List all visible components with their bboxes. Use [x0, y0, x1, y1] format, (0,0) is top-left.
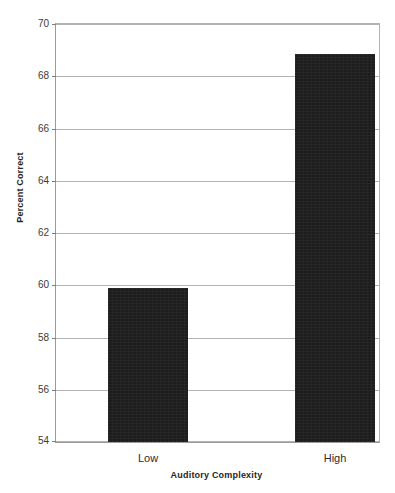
- x-axis-title: Auditory Complexity: [55, 470, 378, 481]
- ytick-label-70: 70: [38, 19, 49, 29]
- bar-high[interactable]: [295, 54, 375, 442]
- ytick-mark-70: [52, 24, 56, 25]
- y-axis-title: Percent Correct: [15, 128, 26, 248]
- xtick-label-high: High: [275, 452, 395, 465]
- ytick-mark-66: [52, 129, 56, 130]
- ytick-label-60: 60: [38, 280, 49, 290]
- gridline-70: 70: [56, 24, 379, 25]
- bar-chart-figure: 706866646260585654 Low High Auditory Com…: [0, 0, 395, 493]
- ytick-mark-58: [52, 338, 56, 339]
- ytick-mark-60: [52, 285, 56, 286]
- ytick-label-58: 58: [38, 333, 49, 343]
- bar-low[interactable]: [108, 288, 188, 442]
- xtick-label-low: Low: [88, 452, 208, 465]
- ytick-mark-62: [52, 233, 56, 234]
- ytick-mark-56: [52, 390, 56, 391]
- ytick-label-56: 56: [38, 385, 49, 395]
- plot-area: 706866646260585654: [55, 23, 380, 443]
- ytick-label-68: 68: [38, 71, 49, 81]
- ytick-mark-68: [52, 76, 56, 77]
- ytick-label-66: 66: [38, 124, 49, 134]
- ytick-label-64: 64: [38, 176, 49, 186]
- ytick-mark-54: [52, 441, 56, 442]
- ytick-mark-64: [52, 181, 56, 182]
- ytick-label-54: 54: [38, 436, 49, 446]
- ytick-label-62: 62: [38, 228, 49, 238]
